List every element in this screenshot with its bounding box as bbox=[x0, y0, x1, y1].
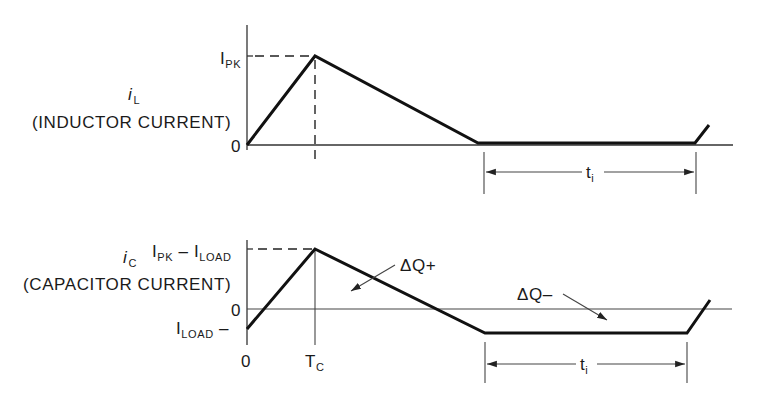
delta-q-positive-label: ΔQ+ bbox=[400, 256, 436, 275]
delta-q-negative-arrow bbox=[563, 294, 607, 320]
top-peak-label: IPK bbox=[220, 49, 241, 70]
bottom-signal-description: (CAPACITOR CURRENT) bbox=[23, 275, 231, 294]
bottom-x-zero-label: 0 bbox=[241, 352, 251, 371]
top-signal-symbol: iL bbox=[128, 85, 140, 106]
bottom-interval-label: ti bbox=[580, 355, 588, 376]
top-zero-label: 0 bbox=[231, 137, 241, 156]
bottom-peak-label: IPK – ILOAD bbox=[152, 242, 232, 263]
inductor-capacitor-current-diagram: IPK 0 iL (INDUCTOR CURRENT) ti IPK – ILO… bbox=[0, 0, 760, 398]
top-signal-description: (INDUCTOR CURRENT) bbox=[32, 113, 231, 132]
bottom-x-tc-label: TC bbox=[305, 352, 325, 373]
capacitor-current-plot: IPK – ILOAD 0 ILOAD – iC (CAPACITOR CURR… bbox=[23, 240, 732, 383]
bottom-signal-symbol: iC bbox=[123, 248, 137, 269]
inductor-current-plot: IPK 0 iL (INDUCTOR CURRENT) ti bbox=[32, 25, 733, 194]
top-interval-label: ti bbox=[586, 163, 594, 184]
inductor-current-waveform bbox=[247, 56, 709, 145]
capacitor-current-waveform bbox=[247, 249, 710, 333]
delta-q-negative-label: ΔQ– bbox=[517, 285, 553, 304]
bottom-load-label: ILOAD – bbox=[176, 319, 229, 340]
bottom-zero-label: 0 bbox=[231, 301, 241, 320]
